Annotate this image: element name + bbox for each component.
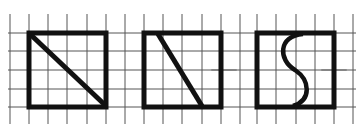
grid-figure — [0, 0, 363, 136]
